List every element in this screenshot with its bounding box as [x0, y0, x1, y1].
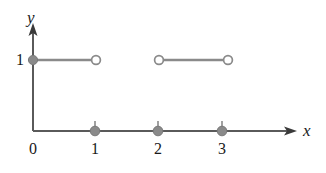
y-axis — [29, 23, 38, 131]
x-tick-label-1: 1 — [86, 141, 104, 157]
y-axis-label: y — [27, 9, 35, 26]
point-2-0 — [153, 126, 163, 136]
closed-endpoint-0-1 — [28, 55, 37, 64]
x-axis — [33, 127, 297, 136]
open-endpoint-1-1 — [92, 56, 101, 65]
y-tick-label-1: 1 — [6, 52, 24, 68]
x-tick-label-0: 0 — [24, 141, 42, 157]
open-endpoint-2-1 — [155, 56, 164, 65]
step-function-figure: y x 1 0 1 2 3 — [0, 0, 326, 173]
x-axis-label: x — [303, 122, 311, 139]
point-3-0 — [217, 126, 227, 136]
x-tick-label-2: 2 — [149, 141, 167, 157]
point-1-0 — [90, 126, 100, 136]
open-endpoint-3-1 — [224, 56, 233, 65]
x-tick-label-3: 3 — [213, 141, 231, 157]
segment-0-to-1 — [28, 55, 100, 64]
segment-2-to-3 — [155, 56, 233, 65]
